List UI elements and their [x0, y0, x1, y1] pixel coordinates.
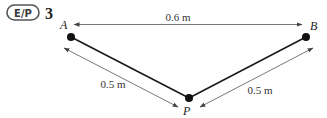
dimension-line-bp	[200, 48, 313, 107]
exam-practice-badge: E/P	[7, 5, 39, 20]
dimension-label-ab: 0.6 m	[165, 11, 191, 23]
diagram-root: E/P 3 0.6 m 0.5 m 0.5 m A B P	[0, 0, 327, 118]
point-b-dot	[302, 33, 310, 41]
string-ap	[71, 37, 189, 98]
string-diagram: E/P 3 0.6 m 0.5 m 0.5 m A B P	[0, 0, 327, 118]
point-p-label: P	[182, 104, 191, 118]
question-number: 3	[45, 5, 53, 22]
point-a-dot	[67, 33, 75, 41]
badge-label: E/P	[14, 8, 32, 19]
point-a-label: A	[59, 18, 68, 32]
dimension-label-bp: 0.5 m	[247, 84, 273, 96]
dimension-label-ap: 0.5 m	[100, 78, 126, 90]
point-p-dot	[185, 94, 193, 102]
point-b-label: B	[310, 19, 318, 33]
